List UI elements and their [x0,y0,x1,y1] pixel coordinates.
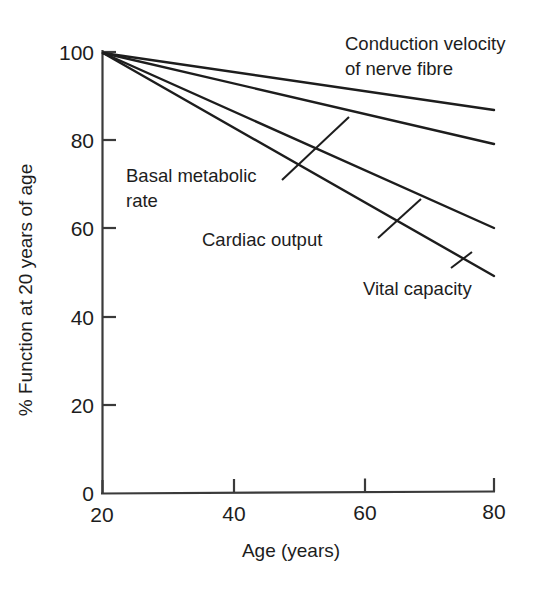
series-line-cardiac-output [103,53,494,228]
label-conduction-velocity-line1: Conduction velocity [345,33,506,54]
label-basal-metabolic-rate-line1: Basal metabolic [126,165,257,186]
y-tick-label-80: 80 [71,129,94,152]
label-cardiac-output: Cardiac output [202,229,322,250]
y-axis-ticks [103,52,117,405]
leader-line-cardiac-output [378,199,421,238]
y-tick-label-40: 40 [71,306,94,329]
y-tick-label-20: 20 [71,394,94,417]
y-tick-label-100: 100 [59,41,94,64]
label-conduction-velocity-line2: of nerve fibre [345,58,453,79]
x-tick-label-60: 60 [353,501,376,524]
x-tick-label-40: 40 [222,502,245,525]
label-basal-metabolic-rate-line2: rate [126,190,158,211]
y-tick-label-60: 60 [71,217,94,240]
y-axis-title: % Function at 20 years of age [15,164,36,416]
y-tick-label-0: 0 [82,482,94,505]
x-axis-title: Age (years) [242,540,340,561]
annotation-labels-group: Conduction velocity of nerve fibre Basal… [126,33,506,299]
line-chart: 100 80 60 40 20 0 20 40 60 80 Age (years… [0,0,541,590]
x-tick-labels: 20 40 60 80 [90,500,505,526]
x-tick-label-20: 20 [90,503,113,526]
y-tick-labels: 100 80 60 40 20 0 [59,41,94,505]
axes-group [101,50,495,494]
label-vital-capacity: Vital capacity [363,278,472,299]
x-axis-line [101,492,495,494]
x-tick-label-80: 80 [482,500,505,523]
leader-line-basal-metabolic-rate [282,117,349,180]
figure-container: 100 80 60 40 20 0 20 40 60 80 Age (years… [0,0,541,590]
